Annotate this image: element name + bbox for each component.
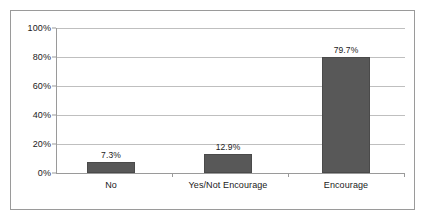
bar-chart-figure: 100% 80% 60% 40% 20% 0% 7.3% 12.9% 79.7%	[0, 0, 426, 223]
y-axis-label-80: 80%	[33, 52, 56, 62]
category-label-yes-not-encourage: Yes/Not Encourage	[189, 180, 268, 190]
category-label-encourage: Encourage	[324, 180, 368, 190]
bar-value-label-encourage: 79.7%	[334, 45, 359, 55]
bar-value-label-yes-not-encourage: 12.9%	[216, 142, 241, 152]
bar-no[interactable]	[87, 162, 135, 173]
y-axis-label-100: 100%	[28, 23, 56, 33]
category-tick-3	[404, 173, 405, 177]
bar-value-label-no: 7.3%	[101, 150, 121, 160]
category-label-no: No	[105, 180, 117, 190]
bar-yes-not-encourage[interactable]	[204, 154, 252, 173]
gridline-0-baseline	[56, 173, 405, 174]
y-axis-label-20: 20%	[33, 139, 56, 149]
gridline-100	[56, 28, 405, 29]
y-axis-label-0: 0%	[38, 168, 56, 178]
bar-encourage[interactable]	[322, 57, 370, 173]
category-tick-1	[172, 173, 173, 177]
y-axis-label-40: 40%	[33, 110, 56, 120]
plot-area: 100% 80% 60% 40% 20% 0% 7.3% 12.9% 79.7%	[56, 28, 405, 173]
y-axis-line	[56, 28, 57, 174]
y-axis-label-60: 60%	[33, 81, 56, 91]
category-tick-2	[288, 173, 289, 177]
